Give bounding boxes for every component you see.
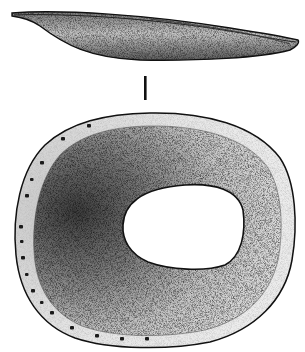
perforation bbox=[61, 137, 65, 141]
central-hole bbox=[123, 185, 244, 270]
illustration-canvas bbox=[0, 0, 305, 352]
perforation bbox=[30, 178, 34, 181]
scale-bar bbox=[144, 76, 147, 100]
plan-view bbox=[15, 113, 295, 348]
perforation bbox=[70, 326, 74, 330]
perforation bbox=[40, 301, 44, 304]
perforation bbox=[50, 311, 54, 315]
artifact-drawing bbox=[0, 0, 305, 352]
perforation bbox=[25, 194, 29, 198]
perforation bbox=[120, 337, 124, 341]
perforation bbox=[20, 240, 24, 243]
side-profile-view bbox=[12, 12, 299, 60]
perforation bbox=[25, 273, 29, 276]
perforation bbox=[95, 334, 99, 338]
perforation bbox=[145, 337, 149, 341]
perforation bbox=[21, 256, 25, 260]
perforation bbox=[31, 289, 35, 293]
perforation bbox=[19, 225, 23, 229]
perforation bbox=[40, 161, 44, 165]
perforation bbox=[87, 124, 91, 128]
